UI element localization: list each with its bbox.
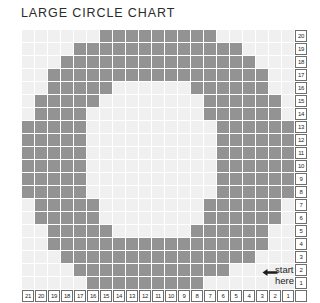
empty-cell[interactable] xyxy=(35,277,47,289)
filled-cell[interactable] xyxy=(74,121,86,133)
filled-cell[interactable] xyxy=(191,225,203,237)
filled-cell[interactable] xyxy=(191,277,203,289)
filled-cell[interactable] xyxy=(100,56,112,68)
empty-cell[interactable] xyxy=(87,160,99,172)
empty-cell[interactable] xyxy=(61,43,73,55)
empty-cell[interactable] xyxy=(139,82,151,94)
empty-cell[interactable] xyxy=(243,30,255,42)
filled-cell[interactable] xyxy=(178,30,190,42)
empty-cell[interactable] xyxy=(35,264,47,276)
filled-cell[interactable] xyxy=(126,238,138,250)
filled-cell[interactable] xyxy=(165,251,177,263)
empty-cell[interactable] xyxy=(87,121,99,133)
empty-cell[interactable] xyxy=(113,173,125,185)
empty-cell[interactable] xyxy=(178,121,190,133)
filled-cell[interactable] xyxy=(126,56,138,68)
filled-cell[interactable] xyxy=(48,212,60,224)
filled-cell[interactable] xyxy=(269,95,281,107)
empty-cell[interactable] xyxy=(165,160,177,172)
empty-cell[interactable] xyxy=(61,264,73,276)
filled-cell[interactable] xyxy=(87,212,99,224)
filled-cell[interactable] xyxy=(139,69,151,81)
empty-cell[interactable] xyxy=(74,277,86,289)
filled-cell[interactable] xyxy=(243,173,255,185)
filled-cell[interactable] xyxy=(243,82,255,94)
filled-cell[interactable] xyxy=(230,225,242,237)
empty-cell[interactable] xyxy=(48,264,60,276)
empty-cell[interactable] xyxy=(152,186,164,198)
filled-cell[interactable] xyxy=(243,199,255,211)
empty-cell[interactable] xyxy=(204,121,216,133)
filled-cell[interactable] xyxy=(61,251,73,263)
filled-cell[interactable] xyxy=(48,121,60,133)
empty-cell[interactable] xyxy=(48,251,60,263)
empty-cell[interactable] xyxy=(269,251,281,263)
filled-cell[interactable] xyxy=(48,173,60,185)
filled-cell[interactable] xyxy=(269,134,281,146)
filled-cell[interactable] xyxy=(230,212,242,224)
filled-cell[interactable] xyxy=(178,69,190,81)
filled-cell[interactable] xyxy=(165,264,177,276)
empty-cell[interactable] xyxy=(178,160,190,172)
filled-cell[interactable] xyxy=(230,43,242,55)
filled-cell[interactable] xyxy=(256,160,268,172)
filled-cell[interactable] xyxy=(87,251,99,263)
empty-cell[interactable] xyxy=(152,212,164,224)
filled-cell[interactable] xyxy=(61,147,73,159)
filled-cell[interactable] xyxy=(61,173,73,185)
empty-cell[interactable] xyxy=(113,82,125,94)
filled-cell[interactable] xyxy=(87,56,99,68)
empty-cell[interactable] xyxy=(22,264,34,276)
filled-cell[interactable] xyxy=(217,212,229,224)
filled-cell[interactable] xyxy=(256,95,268,107)
filled-cell[interactable] xyxy=(48,82,60,94)
empty-cell[interactable] xyxy=(230,264,242,276)
empty-cell[interactable] xyxy=(269,238,281,250)
empty-cell[interactable] xyxy=(282,56,294,68)
empty-cell[interactable] xyxy=(178,134,190,146)
empty-cell[interactable] xyxy=(126,212,138,224)
empty-cell[interactable] xyxy=(191,95,203,107)
empty-cell[interactable] xyxy=(230,277,242,289)
filled-cell[interactable] xyxy=(191,251,203,263)
filled-cell[interactable] xyxy=(282,121,294,133)
filled-cell[interactable] xyxy=(61,108,73,120)
empty-cell[interactable] xyxy=(178,95,190,107)
filled-cell[interactable] xyxy=(22,186,34,198)
filled-cell[interactable] xyxy=(269,212,281,224)
filled-cell[interactable] xyxy=(100,277,112,289)
filled-cell[interactable] xyxy=(282,134,294,146)
empty-cell[interactable] xyxy=(204,134,216,146)
empty-cell[interactable] xyxy=(152,82,164,94)
filled-cell[interactable] xyxy=(217,121,229,133)
filled-cell[interactable] xyxy=(178,277,190,289)
empty-cell[interactable] xyxy=(61,277,73,289)
empty-cell[interactable] xyxy=(191,199,203,211)
filled-cell[interactable] xyxy=(243,225,255,237)
empty-cell[interactable] xyxy=(178,173,190,185)
filled-cell[interactable] xyxy=(191,30,203,42)
filled-cell[interactable] xyxy=(243,160,255,172)
filled-cell[interactable] xyxy=(61,69,73,81)
empty-cell[interactable] xyxy=(35,225,47,237)
filled-cell[interactable] xyxy=(100,30,112,42)
empty-cell[interactable] xyxy=(87,186,99,198)
empty-cell[interactable] xyxy=(269,56,281,68)
empty-cell[interactable] xyxy=(165,147,177,159)
filled-cell[interactable] xyxy=(178,56,190,68)
filled-cell[interactable] xyxy=(243,251,255,263)
filled-cell[interactable] xyxy=(269,121,281,133)
filled-cell[interactable] xyxy=(204,238,216,250)
empty-cell[interactable] xyxy=(22,82,34,94)
filled-cell[interactable] xyxy=(113,43,125,55)
filled-cell[interactable] xyxy=(230,108,242,120)
filled-cell[interactable] xyxy=(22,134,34,146)
filled-cell[interactable] xyxy=(126,69,138,81)
empty-cell[interactable] xyxy=(165,82,177,94)
empty-cell[interactable] xyxy=(152,225,164,237)
empty-cell[interactable] xyxy=(282,108,294,120)
filled-cell[interactable] xyxy=(74,225,86,237)
filled-cell[interactable] xyxy=(48,95,60,107)
filled-cell[interactable] xyxy=(74,69,86,81)
empty-cell[interactable] xyxy=(35,238,47,250)
